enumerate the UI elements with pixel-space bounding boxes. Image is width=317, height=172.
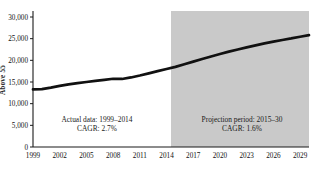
y-axis-title: Above 55	[0, 65, 7, 95]
x-tick-label: 2017	[186, 152, 201, 160]
x-tick-label: 2029	[293, 152, 308, 160]
x-tick-label: 2002	[53, 152, 68, 160]
x-tick-label: 2014	[159, 152, 174, 160]
x-tick-label: 2026	[266, 152, 281, 160]
y-tick-label: 5,000	[12, 122, 29, 130]
x-tick-label: 1999	[26, 152, 41, 160]
x-tick-label: 2011	[133, 152, 148, 160]
line-chart: 30,00025,00020,00015,00010,0005,0000 199…	[0, 0, 317, 172]
y-tick-label: 0	[24, 144, 28, 152]
x-tick-label: 2020	[213, 152, 228, 160]
y-tick-label: 15,000	[8, 79, 28, 87]
x-tick-label: 2005	[79, 152, 94, 160]
chart-container: 30,00025,00020,00015,00010,0005,0000 199…	[0, 0, 317, 172]
y-tick-label: 30,000	[8, 14, 28, 22]
y-tick-label: 10,000	[8, 100, 28, 108]
x-tick-label: 2023	[239, 152, 254, 160]
x-tick-label: 2008	[106, 152, 121, 160]
y-tick-label: 20,000	[8, 57, 28, 65]
y-tick-label: 25,000	[8, 35, 28, 43]
